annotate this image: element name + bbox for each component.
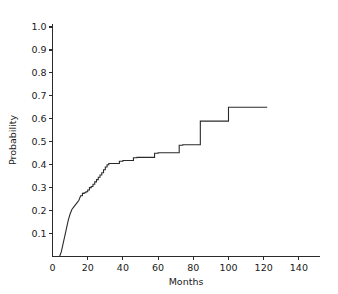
y-axis-title: Probability	[7, 115, 18, 166]
y-tick-label: 0.7	[31, 90, 46, 101]
x-axis-title: Months	[169, 276, 204, 287]
x-tick-label: 140	[290, 262, 308, 273]
x-tick-label: 80	[187, 262, 199, 273]
y-tick-label: 0.9	[31, 44, 46, 55]
y-tick-label: 0.1	[31, 228, 46, 239]
x-tick-label: 0	[49, 262, 55, 273]
y-tick-label: 1.0	[31, 21, 46, 32]
x-tick-label: 40	[117, 262, 129, 273]
x-tick-label: 20	[82, 262, 94, 273]
x-tick-label: 60	[152, 262, 164, 273]
y-tick-label: 0.2	[31, 205, 46, 216]
chart-figure: 0.10.20.30.40.50.60.70.80.91.0 020406080…	[0, 0, 338, 294]
y-tick-label: 0.4	[31, 159, 46, 170]
y-tick-label: 0.8	[31, 67, 46, 78]
chart-background	[0, 0, 338, 294]
probability-step-chart: 0.10.20.30.40.50.60.70.80.91.0 020406080…	[0, 0, 338, 294]
x-tick-label: 120	[255, 262, 273, 273]
y-tick-label: 0.6	[31, 113, 46, 124]
x-tick-label: 100	[219, 262, 237, 273]
y-tick-label: 0.3	[31, 182, 46, 193]
y-tick-label: 0.5	[31, 136, 46, 147]
